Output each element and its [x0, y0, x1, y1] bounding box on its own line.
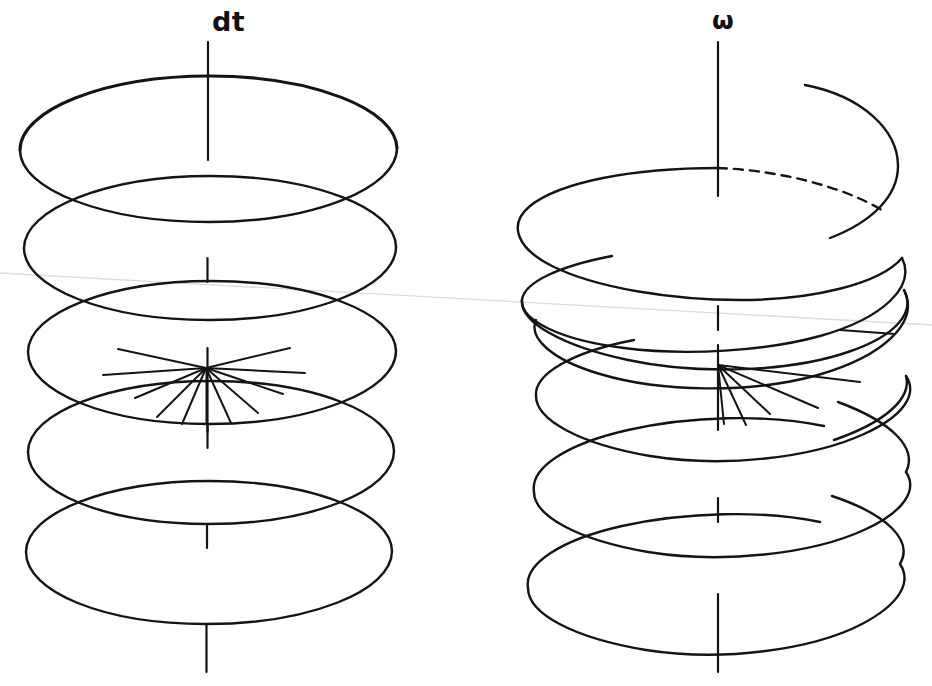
left-disc-2-front-arc [24, 247, 396, 320]
helix-turn-1 [518, 168, 902, 300]
helix-turn-5-front [528, 564, 904, 655]
left-spoke-8 [206, 368, 258, 413]
label-omega: ω [712, 8, 734, 33]
helix-hidden-back-arc [718, 168, 885, 212]
left-spoke-4 [157, 368, 206, 417]
helix-turn-2-back [522, 256, 905, 352]
left-spoke-11 [206, 348, 290, 368]
label-dt: dt [212, 8, 245, 35]
right-spoke-3 [718, 365, 770, 414]
right-helix-stack [518, 42, 910, 672]
left-disc-4-back-arc [28, 381, 394, 452]
diagram-canvas: dt ω [0, 0, 932, 686]
left-disc-5-front-arc [26, 551, 392, 624]
left-disc-4-front-arc [28, 451, 394, 524]
helix-turn-4-back-left [534, 418, 824, 492]
helix-turn-5-back-right [832, 496, 904, 564]
left-spoke-7 [206, 368, 231, 423]
left-disc-2-back-arc [24, 176, 396, 248]
left-disc-stack [20, 42, 397, 672]
helix-start-arc [805, 85, 898, 238]
right-spoke-6-outer [840, 330, 895, 334]
left-disc-3-front-arc [28, 351, 396, 424]
diagram-drawing [0, 0, 932, 686]
helix-turn-5-back-left [528, 514, 820, 588]
scan-fold-line [0, 273, 932, 325]
left-disc-5-back-arc [26, 481, 392, 552]
left-spoke-2 [118, 349, 206, 368]
